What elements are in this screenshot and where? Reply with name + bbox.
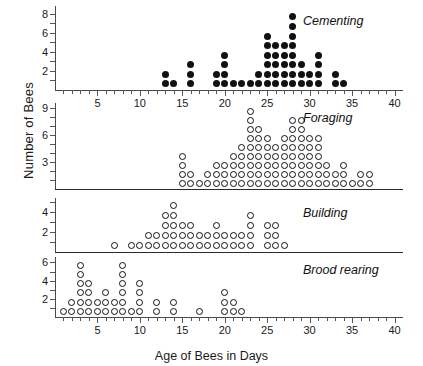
- x-tick: [174, 90, 175, 94]
- data-point: [272, 180, 279, 187]
- x-tick: [335, 317, 336, 321]
- data-point: [221, 242, 228, 249]
- data-point: [213, 71, 220, 78]
- data-point: [85, 280, 92, 287]
- data-point: [230, 242, 237, 249]
- x-tick: [259, 317, 260, 321]
- data-point: [298, 180, 305, 187]
- data-point: [153, 299, 160, 306]
- x-tick: [63, 90, 64, 94]
- x-tick: [199, 90, 200, 94]
- data-point: [77, 308, 84, 315]
- data-point: [230, 171, 237, 178]
- data-point: [170, 80, 177, 87]
- data-point: [264, 42, 271, 49]
- data-point: [119, 289, 126, 296]
- data-point: [221, 71, 228, 78]
- y-tick: [50, 80, 55, 81]
- x-tick: [97, 90, 98, 96]
- data-point: [281, 153, 288, 160]
- data-point: [272, 71, 279, 78]
- x-tick: [327, 317, 328, 321]
- x-tick: [395, 317, 396, 323]
- data-point: [238, 80, 245, 87]
- data-point: [238, 308, 245, 315]
- y-tick-label: 6: [42, 256, 48, 268]
- panel-brood-rearing: 246510152025303540Brood rearing: [55, 257, 403, 317]
- data-point: [298, 135, 305, 142]
- data-point: [281, 71, 288, 78]
- data-point: [289, 126, 296, 133]
- data-point: [179, 242, 186, 249]
- data-point: [281, 80, 288, 87]
- data-point: [170, 299, 177, 306]
- x-tick: [242, 90, 243, 94]
- x-tick: [114, 317, 115, 321]
- data-point: [315, 162, 322, 169]
- data-point: [340, 80, 347, 87]
- data-point: [128, 308, 135, 315]
- x-tick: [80, 317, 81, 321]
- data-point: [289, 180, 296, 187]
- y-tick-label: 6: [42, 27, 48, 39]
- data-point: [247, 144, 254, 151]
- data-point: [264, 232, 271, 239]
- data-point: [366, 180, 373, 187]
- y-tick: [50, 299, 55, 300]
- plot-area-brood-rearing: 246510152025303540Brood rearing: [55, 257, 403, 317]
- data-point: [315, 61, 322, 68]
- y-tick: [50, 222, 55, 223]
- data-point: [289, 153, 296, 160]
- x-tick-label: 10: [134, 324, 146, 336]
- data-point: [298, 153, 305, 160]
- data-point: [315, 80, 322, 87]
- data-point: [247, 135, 254, 142]
- data-point: [187, 242, 194, 249]
- x-tick: [114, 90, 115, 94]
- data-point: [162, 242, 169, 249]
- data-point: [323, 162, 330, 169]
- x-tick: [369, 317, 370, 321]
- data-point: [77, 262, 84, 269]
- data-point: [238, 144, 245, 151]
- data-point: [306, 171, 313, 178]
- y-tick: [50, 126, 55, 127]
- x-tick: [97, 317, 98, 323]
- data-point: [247, 222, 254, 229]
- data-point: [247, 212, 254, 219]
- data-point: [306, 80, 313, 87]
- x-tick-label: 35: [346, 324, 358, 336]
- data-point: [298, 61, 305, 68]
- data-point: [289, 13, 296, 20]
- data-point: [323, 180, 330, 187]
- x-tick: [106, 317, 107, 321]
- y-axis-title: Number of Bees: [21, 61, 36, 201]
- data-point: [238, 153, 245, 160]
- data-point: [255, 171, 262, 178]
- data-point: [272, 232, 279, 239]
- y-tick-label: 4: [42, 206, 48, 218]
- data-point: [289, 33, 296, 40]
- x-tick: [361, 317, 362, 321]
- x-tick: [174, 317, 175, 321]
- y-tick: [50, 212, 55, 213]
- x-tick: [216, 317, 217, 321]
- y-tick-label: 9: [42, 102, 48, 114]
- data-point: [272, 162, 279, 169]
- data-point: [247, 232, 254, 239]
- baseline-foraging: [55, 189, 403, 190]
- data-point: [230, 232, 237, 239]
- y-axis-cementing: [55, 6, 56, 90]
- y-tick: [50, 33, 55, 34]
- data-point: [247, 126, 254, 133]
- data-point: [298, 71, 305, 78]
- y-tick-label: 8: [42, 8, 48, 20]
- baseline-cementing: [55, 90, 403, 91]
- data-point: [162, 222, 169, 229]
- data-point: [204, 232, 211, 239]
- x-tick-label: 40: [388, 324, 400, 336]
- y-tick-label: 3: [42, 156, 48, 168]
- x-tick: [267, 90, 268, 96]
- data-point: [272, 42, 279, 49]
- data-point: [136, 299, 143, 306]
